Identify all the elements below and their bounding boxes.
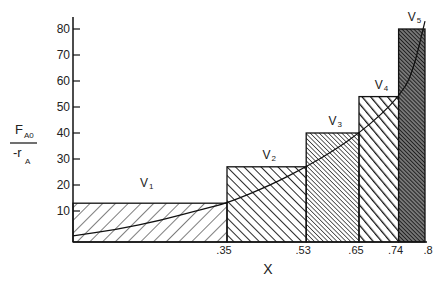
- bar-v3: V3: [306, 114, 359, 242]
- bar-rect: [399, 29, 425, 242]
- bar-rect: [359, 97, 399, 242]
- y-tick-label: 20: [57, 178, 71, 192]
- x-tick-label: .35: [216, 244, 231, 256]
- bar-label-sub: 2: [272, 154, 277, 163]
- bar-label-sub: 3: [338, 120, 343, 129]
- bar-label-sub: 4: [384, 84, 389, 93]
- x-tick-label: .8: [423, 244, 432, 256]
- y-title-denominator: -r: [13, 145, 22, 160]
- y-ticks: 1020304050607080: [57, 22, 80, 218]
- y-title-denominator-sub: A: [25, 157, 31, 166]
- y-tick-label: 40: [57, 126, 71, 140]
- bar-label-sub: 1: [149, 182, 154, 191]
- y-tick-label: 30: [57, 152, 71, 166]
- x-tick-label: .74: [388, 244, 403, 256]
- y-tick-label: 60: [57, 74, 71, 88]
- y-tick-label: 50: [57, 100, 71, 114]
- bar-label-v4: V: [375, 78, 383, 92]
- bar-label-v2: V: [263, 148, 271, 162]
- bar-v2: V2: [227, 148, 306, 242]
- x-tick-label: .53: [296, 244, 311, 256]
- y-tick-label: 10: [57, 204, 71, 218]
- x-tick-label: .65: [348, 244, 363, 256]
- x-ticks: .35.53.65.74.8: [216, 244, 432, 256]
- y-title-numerator-sub: A0: [24, 131, 34, 140]
- bar-label-v1: V: [140, 176, 148, 190]
- y-tick-label: 70: [57, 48, 71, 62]
- bar-v5: V5: [399, 10, 425, 242]
- levenspiel-plot: V1V2V3V4V5 1020304050607080 .35.53.65.74…: [0, 0, 443, 284]
- bar-label-v3: V: [329, 114, 337, 128]
- bars-group: V1V2V3V4V5: [73, 10, 425, 242]
- bar-rect: [227, 167, 306, 242]
- y-title-numerator: F: [15, 122, 23, 137]
- y-tick-label: 80: [57, 22, 71, 36]
- bar-rect: [306, 133, 359, 242]
- bar-label-sub: 5: [417, 16, 422, 25]
- bar-label-v5: V: [408, 10, 416, 24]
- x-axis-title: X: [263, 261, 273, 277]
- y-axis-title: F A0 -r A: [10, 122, 37, 166]
